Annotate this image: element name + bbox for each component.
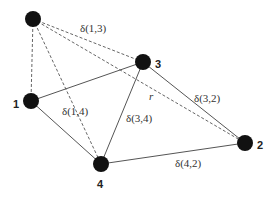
edge-label-d42: δ(4,2) [175, 157, 202, 170]
graph-diagram: 1 3 4 2 δ(1,3) δ(1,4) δ(3,4) δ(3,2) δ(4,… [0, 0, 278, 197]
edge-top-1 [31, 19, 33, 101]
edge-label-d14: δ(1,4) [62, 105, 89, 118]
node-4 [93, 156, 109, 172]
node-label-4: 4 [97, 178, 104, 190]
node-1 [23, 93, 39, 109]
node-3 [135, 54, 151, 70]
node-2 [237, 135, 253, 151]
edge-label-d32: δ(3,2) [194, 92, 221, 105]
edge-label-r: r [149, 90, 154, 102]
edge-label-d34: δ(3,4) [126, 112, 153, 125]
edge-top-2 [33, 19, 245, 143]
edge-4-2 [101, 143, 245, 164]
node-label-1: 1 [13, 98, 19, 110]
edge-1-3 [31, 62, 143, 101]
node-top [25, 11, 41, 27]
edge-label-d13: δ(1,3) [80, 22, 107, 35]
edge-top-4 [33, 19, 101, 164]
node-label-2: 2 [257, 139, 263, 151]
node-label-3: 3 [155, 58, 161, 70]
